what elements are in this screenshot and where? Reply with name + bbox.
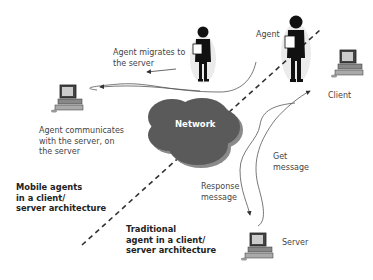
response-message-label: Response message [201, 182, 239, 203]
agent-figure-icon [279, 13, 313, 85]
server-label: Server [282, 238, 308, 249]
migrate-arrow [147, 69, 176, 72]
agent-label: Agent [256, 30, 280, 41]
agent-communicates-label: Agent communicates with the server, on t… [39, 126, 124, 158]
server-computer-icon [240, 231, 276, 265]
traditional-agent-region-label: Traditional agent in a client/ server ar… [126, 224, 216, 256]
client-label: Client [328, 91, 351, 102]
agent-migrates-label: Agent migrates to the server [113, 48, 185, 69]
computer-icon [50, 83, 86, 117]
network-label: Network [175, 119, 215, 129]
mobile-agents-region-label: Mobile agents in a client/ server archit… [16, 182, 106, 214]
network-cloud-icon [146, 95, 248, 173]
client-computer-icon [330, 48, 366, 82]
get-message-label: Get message [273, 152, 309, 173]
agent-figure-icon [188, 24, 218, 84]
